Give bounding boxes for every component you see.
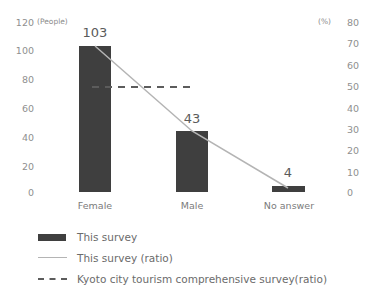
y2-axis-tick-20: 20	[347, 146, 369, 156]
chart-container: (People) (%) 120 100 80 60 40 20 0 80 70…	[0, 0, 377, 290]
y-axis-tick-120: 120	[8, 18, 34, 28]
bar-value-label-female: 103	[70, 26, 120, 40]
y-axis-tick-60: 60	[8, 104, 34, 114]
y2-axis-tick-70: 70	[347, 39, 369, 49]
chart-legend: This survey This survey (ratio) Kyoto ci…	[38, 226, 368, 289]
y2-axis-tick-40: 40	[347, 104, 369, 114]
y2-axis-tick-80: 80	[347, 18, 369, 28]
y2-axis-tick-10: 10	[347, 168, 369, 178]
legend-item-this-survey-ratio: This survey (ratio)	[38, 247, 368, 268]
y2-axis-tick-50: 50	[347, 82, 369, 92]
legend-label-this-survey: This survey	[77, 231, 137, 243]
y-axis-tick-20: 20	[8, 162, 34, 172]
bar-value-label-no-answer: 4	[263, 166, 313, 180]
solid-line-swatch-icon	[38, 252, 68, 264]
x-axis-label-no-answer: No answer	[256, 200, 322, 211]
y2-axis-tick-0: 0	[347, 188, 369, 198]
y-axis-tick-100: 100	[8, 46, 34, 56]
legend-item-kyoto-survey-ratio: Kyoto city tourism comprehensive survey(…	[38, 268, 368, 289]
y2-axis-tick-30: 30	[347, 125, 369, 135]
legend-label-kyoto-survey-ratio: Kyoto city tourism comprehensive survey(…	[77, 273, 327, 285]
bar-swatch-icon	[38, 231, 68, 243]
dashed-line-swatch-icon	[38, 273, 68, 285]
y-axis-tick-0: 0	[8, 188, 34, 198]
x-axis-label-male: Male	[162, 200, 222, 211]
bar-male	[176, 131, 208, 192]
y-axis-tick-40: 40	[8, 133, 34, 143]
y-axis-tick-80: 80	[8, 75, 34, 85]
bar-no-answer	[272, 186, 305, 192]
left-axis-unit-label: (People)	[37, 17, 68, 26]
y2-axis-tick-60: 60	[347, 61, 369, 71]
right-axis-unit-label: (%)	[318, 17, 331, 26]
legend-label-this-survey-ratio: This survey (ratio)	[77, 252, 173, 264]
legend-item-this-survey: This survey	[38, 226, 368, 247]
bar-female	[79, 46, 111, 192]
x-axis-label-female: Female	[65, 200, 125, 211]
bar-value-label-male: 43	[167, 112, 217, 126]
